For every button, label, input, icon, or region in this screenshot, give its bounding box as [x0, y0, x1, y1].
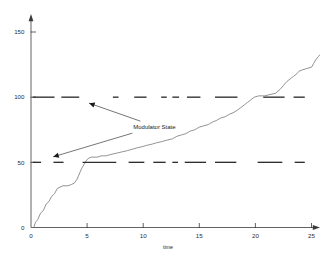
data-curve [31, 54, 320, 227]
annotations-group: Modulator State [53, 103, 176, 158]
x-tick-label: 5 [85, 232, 89, 239]
annotation-label: Modulator State [133, 124, 176, 130]
y-tick-label: 150 [14, 28, 25, 35]
x-tick-label: 10 [140, 232, 147, 239]
chart-figure: 0501001500510152025time Modulator State [0, 0, 320, 271]
chart-canvas: 0501001500510152025time Modulator State [0, 0, 320, 271]
y-tick-label: 0 [21, 224, 25, 231]
y-tick-label: 100 [14, 93, 25, 100]
y-axis-arrowhead [29, 14, 34, 21]
annotation-arrow-line [53, 133, 132, 157]
series-group [31, 54, 320, 227]
x-tick-label: 0 [29, 232, 33, 239]
annotation-arrow-line [89, 103, 140, 121]
x-tick-label: 25 [308, 232, 315, 239]
x-tick-label: 20 [252, 232, 259, 239]
axes-group: 0501001500510152025time [14, 14, 320, 250]
annotation-arrowhead [89, 103, 95, 108]
x-axis-arrowhead [313, 225, 320, 230]
y-tick-label: 50 [18, 159, 25, 166]
x-tick-label: 15 [196, 232, 203, 239]
x-axis-title: time [163, 244, 173, 250]
annotation-arrowhead [53, 153, 59, 158]
